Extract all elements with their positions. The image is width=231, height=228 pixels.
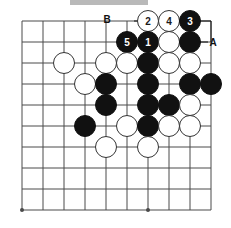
stone-disc — [117, 116, 138, 137]
white-stone[interactable] — [117, 116, 138, 137]
stone-disc — [180, 74, 201, 95]
stone-disc — [180, 95, 201, 116]
move-number-label: 3 — [187, 16, 193, 27]
star-point — [146, 208, 150, 212]
move-number-label: 5 — [124, 37, 130, 48]
white-stone[interactable]: 2 — [138, 11, 159, 32]
go-board-diagram: 24351 BA — [0, 0, 231, 228]
stone-disc — [138, 137, 159, 158]
white-stone[interactable] — [159, 116, 180, 137]
black-stone[interactable]: 3 — [180, 11, 201, 32]
stone-disc — [96, 53, 117, 74]
black-stone[interactable] — [180, 32, 201, 53]
stone-disc — [96, 95, 117, 116]
black-stone[interactable] — [138, 53, 159, 74]
white-stone[interactable] — [96, 53, 117, 74]
stone-disc — [54, 53, 75, 74]
stone-disc — [138, 95, 159, 116]
white-stone[interactable] — [75, 74, 96, 95]
black-stone[interactable] — [201, 74, 222, 95]
stones-layer[interactable]: 24351 — [54, 11, 222, 158]
stone-disc — [138, 53, 159, 74]
stone-disc — [159, 95, 180, 116]
stone-disc — [180, 116, 201, 137]
move-number-label: 1 — [145, 37, 151, 48]
white-stone[interactable] — [180, 116, 201, 137]
black-stone[interactable] — [96, 95, 117, 116]
white-stone[interactable] — [180, 53, 201, 74]
star-point — [20, 208, 24, 212]
white-stone[interactable] — [117, 53, 138, 74]
stone-disc — [159, 32, 180, 53]
move-number-label: 4 — [166, 16, 172, 27]
go-board-canvas[interactable]: 24351 BA — [0, 0, 231, 228]
white-stone[interactable] — [159, 53, 180, 74]
black-stone[interactable] — [138, 74, 159, 95]
stone-disc — [180, 32, 201, 53]
stone-disc — [159, 53, 180, 74]
white-stone[interactable] — [96, 137, 117, 158]
white-stone[interactable]: 4 — [159, 11, 180, 32]
white-stone[interactable] — [138, 137, 159, 158]
stone-disc — [201, 74, 222, 95]
black-stone[interactable] — [159, 95, 180, 116]
black-stone[interactable] — [75, 116, 96, 137]
black-stone[interactable] — [138, 95, 159, 116]
stone-disc — [180, 53, 201, 74]
black-stone[interactable] — [96, 74, 117, 95]
marker-b: B — [103, 14, 110, 25]
white-stone[interactable] — [54, 53, 75, 74]
white-stone[interactable] — [159, 32, 180, 53]
stone-disc — [96, 74, 117, 95]
stone-disc — [138, 74, 159, 95]
stone-disc — [138, 116, 159, 137]
marker-a: A — [209, 37, 216, 48]
stone-disc — [75, 116, 96, 137]
black-stone[interactable]: 5 — [117, 32, 138, 53]
black-stone[interactable] — [138, 116, 159, 137]
stone-disc — [159, 116, 180, 137]
stone-disc — [96, 137, 117, 158]
stone-disc — [75, 74, 96, 95]
move-number-label: 2 — [145, 16, 151, 27]
stone-disc — [117, 53, 138, 74]
black-stone[interactable]: 1 — [138, 32, 159, 53]
black-stone[interactable] — [180, 74, 201, 95]
white-stone[interactable] — [180, 95, 201, 116]
